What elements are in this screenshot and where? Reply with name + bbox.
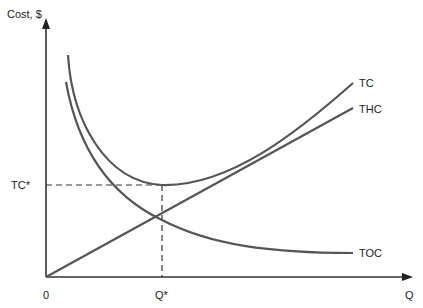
toc-curve <box>66 82 353 253</box>
tc-curve <box>68 55 353 185</box>
thc-line-label: THC <box>359 104 382 115</box>
x-axis-label: Q <box>405 290 414 301</box>
y-axis-label: Cost, $ <box>7 9 42 20</box>
x-axis-arrow-icon <box>402 273 413 281</box>
cost-chart <box>0 0 423 308</box>
toc-curve-label: TOC <box>359 248 382 259</box>
tc-star-label: TC* <box>11 180 30 191</box>
q-star-label: Q* <box>155 290 168 301</box>
y-axis-arrow-icon <box>42 18 50 29</box>
tc-curve-label: TC <box>359 78 374 89</box>
origin-label: 0 <box>43 290 49 301</box>
